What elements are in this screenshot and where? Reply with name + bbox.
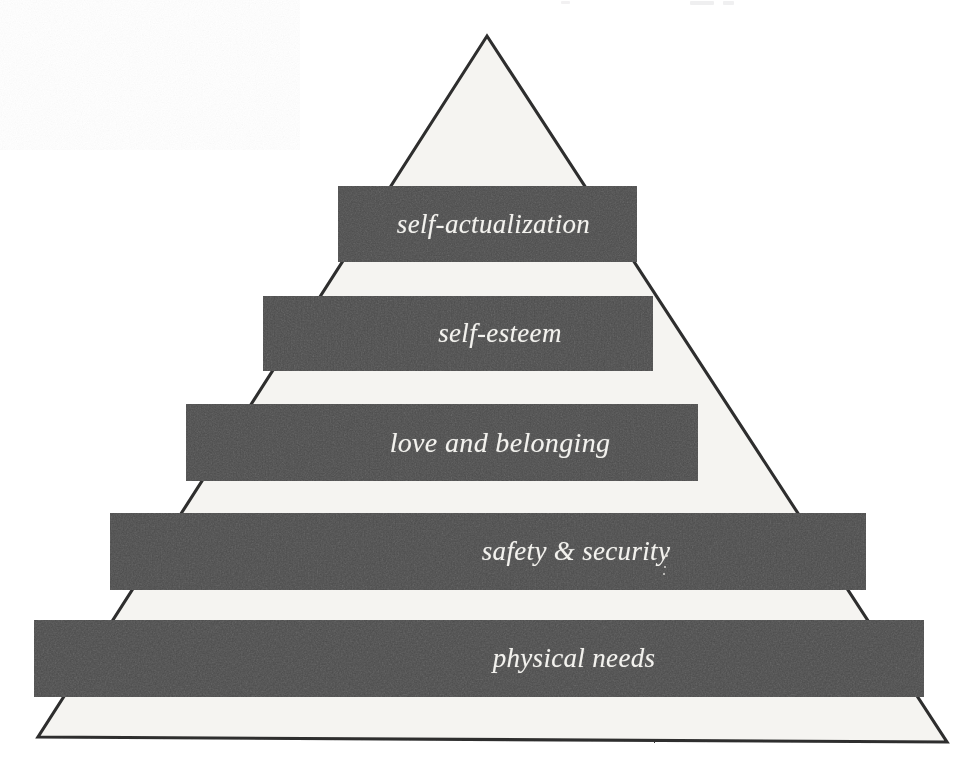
pyramid-level-4-label: safety & security — [482, 536, 670, 567]
pyramid-level-3-label: love and belonging — [390, 427, 611, 459]
pyramid-level-2: self-esteem — [263, 296, 653, 371]
pyramid-level-5: physical needs — [34, 620, 924, 697]
pyramid-level-5-label: physical needs — [493, 643, 656, 674]
pyramid-level-3: love and belonging — [186, 404, 698, 481]
pyramid-level-1: self-actualization — [338, 186, 637, 262]
band-texture — [34, 620, 924, 697]
pyramid-level-4: safety & security — [110, 513, 866, 590]
pyramid-level-2-label: self-esteem — [438, 318, 562, 349]
pyramid-level-1-label: self-actualization — [397, 209, 590, 240]
figure-canvas: self-actualization self-esteem love and … — [0, 0, 973, 773]
